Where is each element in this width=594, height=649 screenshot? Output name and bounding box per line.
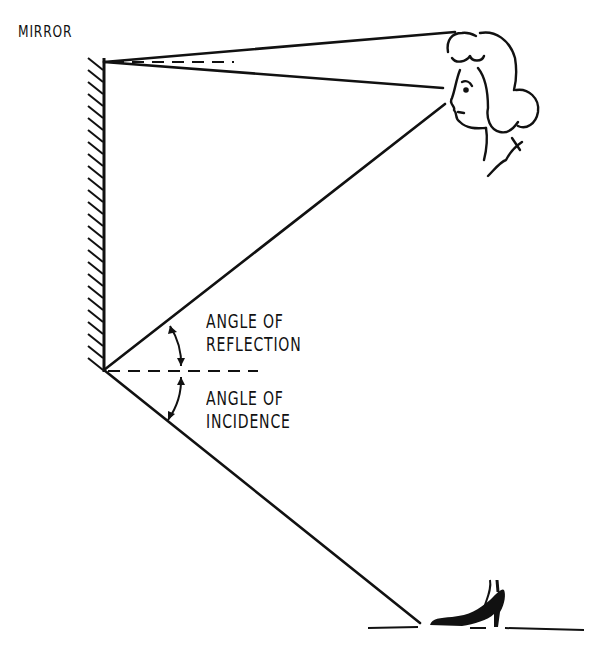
reflection-label-line2: REFLECTION	[206, 333, 302, 356]
reflection-diagram: MIRROR ANGLE OF REFLECTION ANGLE OF INCI…	[0, 0, 594, 649]
mirror-label: MIRROR	[18, 22, 72, 41]
mirror	[88, 58, 104, 372]
angle-arrows	[168, 326, 185, 420]
reflection-label-line1: ANGLE OF	[206, 310, 302, 333]
floor-line	[368, 627, 584, 630]
shoe-icon	[430, 580, 505, 627]
incidence-label-line1: ANGLE OF	[206, 387, 291, 410]
ray-to-eye	[104, 62, 443, 88]
mirror-hatching	[88, 58, 103, 370]
angle-of-reflection-label: ANGLE OF REFLECTION	[206, 310, 302, 356]
angle-of-incidence-label: ANGLE OF INCIDENCE	[206, 387, 291, 433]
incidence-label-line2: INCIDENCE	[206, 410, 291, 433]
ray-top-of-head	[104, 32, 455, 62]
woman-head-icon	[448, 32, 539, 176]
